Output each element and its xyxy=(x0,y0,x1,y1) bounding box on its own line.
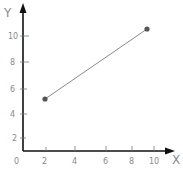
y-ticks xyxy=(20,36,29,138)
y-axis-label: Y xyxy=(3,6,12,20)
data-line xyxy=(45,29,147,99)
data-point xyxy=(42,96,47,101)
x-tick-label: 10 xyxy=(149,157,159,166)
x-tick-label: 8 xyxy=(129,157,134,166)
data-point xyxy=(144,26,149,31)
y-tick-label: 6 xyxy=(10,85,15,94)
line-chart: 10 8 6 4 2 0 2 4 6 8 10 Y X xyxy=(0,0,183,169)
x-tick-label: 2 xyxy=(42,157,47,166)
x-tick-label: 6 xyxy=(103,157,108,166)
x-tick-label: 4 xyxy=(72,157,77,166)
y-axis-arrow-icon xyxy=(20,3,27,13)
y-tick-label: 4 xyxy=(10,110,15,119)
y-tick-label: 2 xyxy=(12,134,17,143)
y-tick-label: 8 xyxy=(10,58,15,67)
x-tick-label: 0 xyxy=(14,157,19,166)
y-tick-label: 10 xyxy=(8,32,18,41)
x-axis-label: X xyxy=(172,153,180,167)
